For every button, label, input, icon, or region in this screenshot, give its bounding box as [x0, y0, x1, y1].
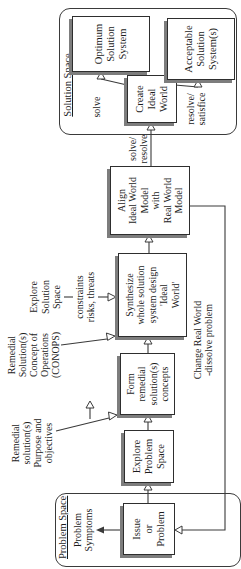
open-arrowhead-icon: [144, 483, 152, 490]
remedial-purpose-objectives-label: Remedial solution(s) Purpose and objecti…: [10, 413, 54, 473]
synthesize-ideal-world-text: Synthesize whole solution system design …: [124, 265, 182, 324]
resolve-satisfice-label: resolve/ satisfice: [186, 87, 207, 131]
form-remedial-concepts-box: Form remedial solution(s) concepts: [120, 353, 175, 415]
solve-resolve-label: solve/ resolve: [128, 127, 149, 171]
connector-conops-to-synthesize: [61, 339, 107, 345]
change-real-world-label: Change Real World -dissolve problem: [192, 265, 214, 415]
issue-or-problem-box: Issue or Problem: [123, 503, 175, 555]
explore-problem-space-box: Explore Problem Space: [124, 430, 174, 483]
explore-solution-space-label: Explore Solution Space: [28, 269, 63, 325]
open-arrowhead-icon: [106, 333, 115, 340]
open-arrowhead-icon: [109, 412, 118, 420]
connector-purpose-to-form: [56, 418, 109, 431]
create-ideal-world-box: Create Ideal World: [127, 75, 177, 123]
open-arrowhead-icon: [108, 293, 116, 301]
open-arrowhead-icon: [144, 337, 152, 344]
remedial-conops-label: Remedial Solution(s) Concept of Operatio…: [6, 323, 61, 387]
synthesize-ideal-world-box: Synthesize whole solution system design …: [118, 253, 187, 337]
open-arrowhead-icon: [144, 415, 152, 422]
create-ideal-world-text: Create Ideal World: [134, 85, 170, 112]
explore-problem-space-text: Explore Problem Space: [131, 439, 167, 475]
problem-symptoms-label: Problem Symptoms: [72, 502, 94, 558]
acceptable-solution-system-box: Acceptable Solution System(s): [167, 18, 235, 80]
solve-label: solve: [91, 91, 102, 123]
systems-engineering-flow-diagram: Problem Space Solution Space Issue or Pr…: [0, 0, 241, 569]
align-models-text: Align Ideal World Model with Real World …: [116, 177, 185, 224]
constraints-risks-threats-label: constraints risks, threats: [74, 266, 96, 328]
form-remedial-concepts-text: Form remedial solution(s) concepts: [125, 363, 171, 406]
optimum-solution-system-text: Optimum Solution System: [93, 24, 129, 64]
problem-space-title: Problem Space: [57, 503, 68, 559]
issue-or-problem-text: Issue or Problem: [131, 511, 167, 547]
open-arrowhead-icon: [86, 401, 94, 408]
optimum-solution-system-box: Optimum Solution System: [72, 16, 150, 72]
align-models-box: Align Ideal World Model with Real World …: [110, 166, 190, 235]
acceptable-solution-system-text: Acceptable Solution System(s): [183, 25, 219, 72]
open-arrowhead-icon: [145, 235, 153, 242]
